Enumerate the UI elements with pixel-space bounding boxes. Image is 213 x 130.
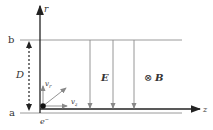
electric-field-label: E (100, 72, 109, 83)
diagram-canvas: r z b a D vr vz e− E ⊗ B (0, 0, 213, 130)
magnetic-field-label: B (154, 72, 163, 83)
magnetic-field-symbol: ⊗ (144, 72, 152, 83)
separation-label: D (15, 69, 24, 80)
v-resultant-vector (43, 88, 66, 106)
separation-arrowhead-top (26, 41, 32, 48)
electron-label: e− (40, 116, 49, 126)
bottom-plate-label: a (9, 107, 15, 118)
vr-label: vr (45, 80, 52, 89)
electron-dot (40, 103, 46, 109)
vz-label: vz (71, 98, 78, 107)
z-axis-label: z (202, 105, 208, 114)
top-plate-label: b (8, 34, 14, 45)
r-axis-label: r (44, 4, 49, 14)
separation-arrowhead-bottom (26, 104, 32, 111)
